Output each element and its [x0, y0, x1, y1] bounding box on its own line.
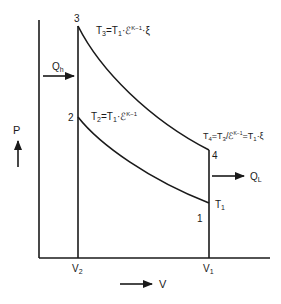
t4-equation: T4=T3/ℰK−1=T1·ξ: [203, 130, 264, 142]
t2-equation: T2=T1·ℰK−1: [91, 111, 138, 123]
point-2-label: 2: [68, 112, 74, 123]
v2-label: V2: [72, 263, 83, 275]
compression-curve-2-1: [78, 117, 209, 203]
heat-in-label: Qh: [52, 61, 64, 73]
pressure-label: P: [13, 124, 20, 136]
point-4-label: 4: [212, 150, 218, 161]
point-1-label: 1: [197, 213, 203, 224]
point-3-label: 3: [74, 13, 80, 24]
pv-diagram: P V V2 V1 3 2 4 1 Qh QL T3=T1·ℰK−1·ξ T2=…: [0, 0, 281, 304]
heat-out-label: QL: [250, 171, 262, 183]
v1-label: V1: [203, 263, 214, 275]
t1-label: T1: [215, 199, 225, 211]
volume-label: V: [159, 278, 167, 290]
expansion-curve-3-4: [78, 26, 209, 150]
t3-equation: T3=T1·ℰK−1·ξ: [96, 25, 150, 37]
